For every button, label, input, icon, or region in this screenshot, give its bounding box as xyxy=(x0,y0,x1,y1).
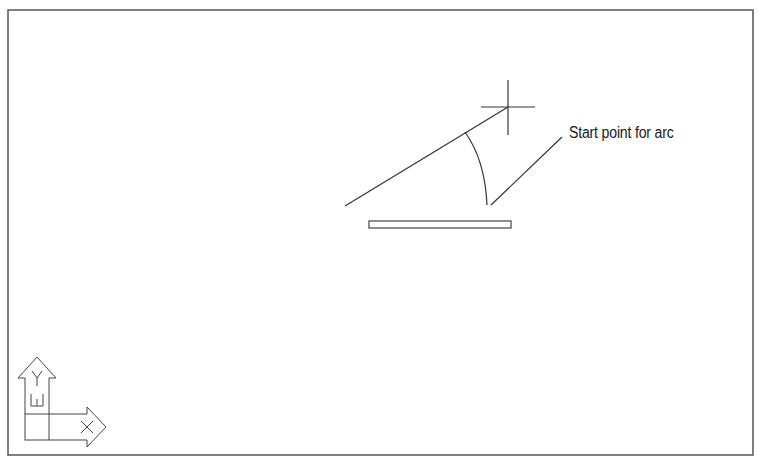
base-rectangle[interactable] xyxy=(369,221,511,228)
viewport-frame xyxy=(8,10,753,455)
ucs-x-glyph xyxy=(81,421,93,433)
arc[interactable] xyxy=(465,132,487,205)
crosshair-cursor-icon xyxy=(481,80,535,135)
ucs-icon xyxy=(18,357,106,447)
callout-label: Start point for arc xyxy=(569,124,674,142)
drawing-canvas[interactable] xyxy=(0,0,758,465)
ucs-w-glyph xyxy=(31,394,43,406)
angled-line[interactable] xyxy=(345,107,508,206)
leader-line xyxy=(491,137,562,205)
ucs-y-glyph xyxy=(32,371,42,386)
